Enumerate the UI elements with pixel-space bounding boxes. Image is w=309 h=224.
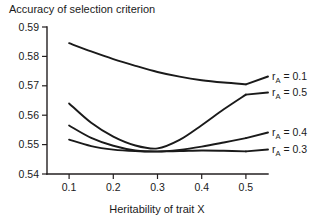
x-axis: 0.10.20.30.40.5 [47, 174, 268, 193]
x-tick-group: 0.10.20.30.40.5 [62, 174, 254, 193]
data-curves [69, 43, 268, 152]
legend-leader-2 [246, 133, 268, 139]
legend-label-0: rA = 0.1 [272, 70, 307, 85]
legend-leader-3 [246, 150, 268, 152]
y-tick-label: 0.58 [19, 50, 40, 62]
line-chart-plot: 0.540.550.560.570.580.59 0.10.20.30.40.5… [0, 0, 309, 224]
y-tick-label: 0.59 [19, 21, 40, 33]
x-tick-label: 0.2 [106, 181, 121, 193]
legend-leader-1 [246, 93, 268, 95]
y-tick-label: 0.55 [19, 138, 40, 150]
legend-label-2: rA = 0.4 [272, 126, 307, 141]
chart-legend: rA = 0.1rA = 0.5rA = 0.4rA = 0.3 [272, 70, 307, 158]
chart-figure: Accuracy of selection criterion 0.540.55… [0, 0, 309, 224]
y-tick-label: 0.57 [19, 79, 40, 91]
y-tick-label: 0.54 [19, 168, 40, 180]
x-tick-label: 0.5 [239, 181, 254, 193]
data-curve-0 [69, 43, 246, 84]
legend-label-3: rA = 0.3 [272, 143, 307, 158]
legend-leader-0 [246, 77, 268, 85]
y-tick-group: 0.540.550.560.570.580.59 [19, 21, 47, 180]
x-axis-title: Heritability of trait X [109, 203, 205, 215]
x-tick-label: 0.3 [150, 181, 165, 193]
legend-label-1: rA = 0.5 [272, 86, 307, 101]
y-axis: 0.540.550.560.570.580.59 [19, 21, 47, 180]
data-curve-3 [69, 140, 246, 152]
x-tick-label: 0.1 [62, 181, 77, 193]
y-tick-label: 0.56 [19, 109, 40, 121]
x-tick-label: 0.4 [194, 181, 209, 193]
